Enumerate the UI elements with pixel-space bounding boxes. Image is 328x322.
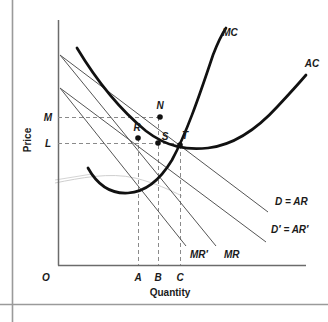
point-R bbox=[135, 135, 141, 141]
curve-label-D-AR: D = AR bbox=[275, 196, 308, 207]
point-T bbox=[177, 142, 183, 148]
point-S bbox=[155, 140, 161, 146]
curve-label-AC: AC bbox=[304, 58, 320, 69]
y-tick-label-M: M bbox=[44, 112, 53, 123]
point-N bbox=[157, 114, 163, 120]
point-label-R: R bbox=[133, 122, 141, 133]
x-axis-title: Quantity bbox=[150, 287, 191, 298]
point-label-S: S bbox=[162, 131, 169, 142]
y-axis-title: Price bbox=[22, 127, 33, 152]
x-tick-label-B: B bbox=[154, 272, 161, 283]
curve-label-Dprime-ARprime: D′ = AR′ bbox=[271, 224, 309, 235]
curve-label-MR: MR bbox=[224, 249, 240, 260]
economics-diagram-figure: MC AC D = AR D′ = AR′ MR MR′ N R S T M L… bbox=[0, 0, 328, 322]
x-tick-label-A: A bbox=[133, 272, 141, 283]
curve-label-MC: MC bbox=[222, 27, 238, 38]
point-label-N: N bbox=[156, 100, 164, 111]
origin-label: O bbox=[42, 272, 50, 283]
y-tick-label-L: L bbox=[45, 138, 51, 149]
x-tick-label-C: C bbox=[176, 272, 184, 283]
point-label-T: T bbox=[182, 130, 189, 141]
curve-label-MRprime: MR′ bbox=[190, 249, 209, 260]
